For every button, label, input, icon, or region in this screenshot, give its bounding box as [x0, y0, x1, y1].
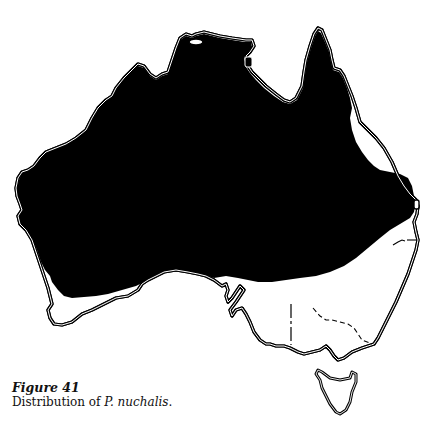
melville-island [189, 39, 203, 45]
figure-label: Figure 41 [12, 380, 172, 395]
species-name: P. nuchalis [104, 395, 168, 409]
distribution-range [17, 31, 415, 298]
groote-eylandt [245, 57, 252, 67]
caption-suffix: . [169, 395, 173, 409]
figure-description: Distribution of P. nuchalis. [12, 395, 172, 410]
caption-prefix: Distribution of [12, 395, 104, 409]
figure-caption: Figure 41 Distribution of P. nuchalis. [12, 380, 172, 410]
fraser-island [414, 200, 419, 209]
distribution-map [0, 0, 434, 431]
